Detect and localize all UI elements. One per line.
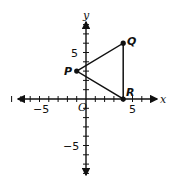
x-tick-label-5: 5 — [129, 103, 136, 116]
point-p — [74, 69, 79, 74]
y-tick-label-neg5: −5 — [63, 140, 79, 153]
label-q: Q — [127, 35, 136, 48]
label-p: P — [64, 65, 72, 78]
y-axis-label: y — [82, 9, 90, 22]
x-axis-label: x — [160, 93, 167, 106]
label-r: R — [126, 86, 134, 99]
coordinate-plane: P Q R x y O −5 5 5 −5 — [0, 0, 176, 184]
point-q — [121, 41, 126, 46]
origin-label: O — [78, 101, 87, 114]
x-tick-label-neg5: −5 — [33, 103, 49, 116]
y-tick-label-5: 5 — [71, 47, 78, 60]
